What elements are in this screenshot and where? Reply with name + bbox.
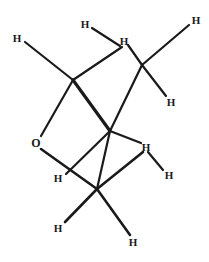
atom-label-h-bottom-center: H xyxy=(129,237,138,248)
atom-label-h-mid-right: H xyxy=(142,142,151,153)
bond-hmid-hlower xyxy=(148,152,163,170)
atom-label-o-ring: O xyxy=(31,137,40,149)
bond-topright-center xyxy=(110,65,142,131)
atom-label-h-top-right: H xyxy=(192,15,201,26)
atom-label-h-right-lower: H xyxy=(165,170,174,181)
bond-topleft-center xyxy=(73,80,110,131)
atom-label-h-left-lower: H xyxy=(54,173,63,184)
bond-center-bottom xyxy=(66,131,110,174)
atom-label-h-bottom-left: H xyxy=(54,223,63,234)
bond-network xyxy=(0,0,209,262)
bond-topleft-topctr xyxy=(73,47,122,80)
bond-h-top-upper xyxy=(92,28,120,46)
atom-label-h-top-left: H xyxy=(13,33,22,44)
bond-bottom-hcenter xyxy=(97,189,130,235)
bond-center-hmid xyxy=(110,131,141,143)
bond-topleft-oxygen xyxy=(41,80,73,136)
chemical-structure-figure: HHHHHOHHHHH xyxy=(0,0,209,262)
bond-h-top-left xyxy=(25,42,73,80)
atom-label-h-right-upper: H xyxy=(167,97,176,108)
bond-topctr-topright xyxy=(128,45,142,65)
bond-lines xyxy=(25,25,189,235)
bond-oxygen-bottom xyxy=(41,149,97,189)
bond-h-right-upper xyxy=(142,65,166,96)
atom-label-h-top-center: H xyxy=(120,36,129,47)
bond-bottom-hleft xyxy=(65,189,97,222)
atom-label-h-top-upper: H xyxy=(81,19,90,30)
bond-h-top-right xyxy=(142,25,189,65)
